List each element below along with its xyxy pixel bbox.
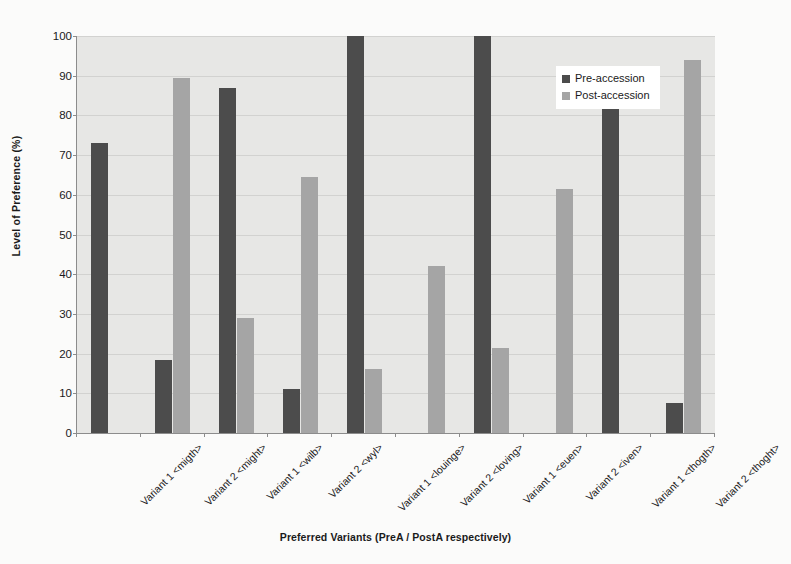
legend-swatch-icon-post-accession	[562, 92, 570, 100]
legend-label-post-accession: Post-accession	[575, 87, 650, 104]
bar-pre-accession	[474, 36, 491, 433]
x-axis-tick-mark	[650, 433, 651, 437]
bar-post-accession	[684, 60, 701, 433]
bar-pre-accession	[155, 360, 172, 433]
x-axis-tick-mark	[267, 433, 268, 437]
x-axis-tick-label: Variant 1 <wilb>	[263, 441, 324, 502]
y-axis-tick-label: 60	[4, 189, 72, 201]
bar-post-accession	[301, 177, 318, 433]
legend-item-pre-accession: Pre-accession	[562, 70, 650, 87]
y-axis-tick-label: 0	[4, 427, 72, 439]
x-axis-tick-mark	[395, 433, 396, 437]
bar-post-accession	[365, 369, 382, 433]
x-axis-tick-label: Variant 2 <loving>	[457, 441, 525, 509]
bar-chart-figure: Level of Preference (%) 0102030405060708…	[0, 0, 791, 564]
legend-item-post-accession: Post-accession	[562, 87, 650, 104]
x-axis-tick-label: Variant 1 <euen>	[520, 441, 585, 506]
bar-pre-accession	[666, 403, 683, 433]
bar-post-accession	[237, 318, 254, 433]
bar-pre-accession	[283, 389, 300, 433]
y-axis-tick-label: 30	[4, 308, 72, 320]
x-axis-tick-label: Variant 2 <iven>	[583, 441, 645, 503]
bar-pre-accession	[91, 143, 108, 433]
bar-pre-accession	[602, 96, 619, 433]
legend-label-pre-accession: Pre-accession	[575, 70, 645, 87]
y-axis-tick-label: 40	[4, 268, 72, 280]
x-axis-title: Preferred Variants (PreA / PostA respect…	[0, 531, 791, 543]
bar-post-accession	[428, 266, 445, 433]
x-axis-tick-mark	[331, 433, 332, 437]
x-axis-tick-mark	[459, 433, 460, 437]
x-axis-tick-label: Variant 1 <louinge>	[396, 441, 468, 513]
bar-post-accession	[492, 348, 509, 433]
x-axis-tick-label: Variant 1 <migth>	[138, 441, 205, 508]
chart-legend: Pre-accession Post-accession	[556, 66, 660, 109]
y-axis-tick-label: 80	[4, 109, 72, 121]
x-axis-tick-label: Variant 2 <might>	[202, 441, 269, 508]
y-axis-tick-label: 90	[4, 70, 72, 82]
y-axis-tick-label: 50	[4, 229, 72, 241]
x-axis-tick-mark	[586, 433, 587, 437]
x-axis-tick-mark	[76, 433, 77, 437]
y-axis-tick-label: 70	[4, 149, 72, 161]
x-axis-tick-label: Variant 2 <thoght>	[713, 441, 782, 510]
bar-pre-accession	[219, 88, 236, 433]
bar-post-accession	[556, 189, 573, 433]
legend-swatch-icon-pre-accession	[562, 75, 570, 83]
x-axis-tick-mark	[204, 433, 205, 437]
x-axis-tick-mark	[140, 433, 141, 437]
y-axis-tick-label: 20	[4, 348, 72, 360]
x-axis-tick-mark	[523, 433, 524, 437]
x-axis-tick-mark	[714, 433, 715, 437]
y-axis-tick-label: 10	[4, 387, 72, 399]
bar-post-accession	[173, 78, 190, 433]
bar-pre-accession	[347, 36, 364, 433]
x-axis-tick-label: Variant 1 <thogth>	[649, 441, 718, 510]
y-axis-tick-label: 100	[4, 30, 72, 42]
x-axis-tick-label: Variant 2 <wyl>	[326, 441, 385, 500]
